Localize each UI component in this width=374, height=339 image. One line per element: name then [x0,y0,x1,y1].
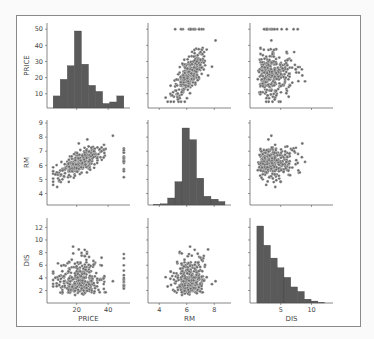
y-tick-label: 30 [35,58,43,66]
scatter-point [77,279,80,282]
scatter-point [93,290,96,293]
scatter-point [293,63,296,66]
scatter-point [295,159,298,162]
scatter-point [73,153,76,156]
scatter-point [80,254,83,257]
y-tick-label: 10 [35,236,43,244]
scatter-point [190,254,193,257]
scatter-point [102,156,105,159]
scatter-point [73,174,76,177]
scatter-point [267,138,270,141]
scatter-point [77,248,80,251]
scatter-point [261,173,264,176]
scatter-point [265,183,268,186]
scatter-point [186,272,189,275]
histogram-bar [264,245,271,303]
scatter-point [80,287,83,290]
scatter-point [266,94,269,97]
x-tick-label: 4 [157,306,161,314]
scatter-point [80,252,83,255]
scatter-point [122,287,125,290]
scatter-point [74,262,77,265]
scatter-point [61,270,64,273]
scatter-point [111,134,114,137]
scatter-point [79,262,82,265]
scatter-point [274,149,277,152]
scatter-point [122,276,125,279]
scatter-point [111,280,114,283]
scatter-point [202,279,205,282]
scatter-point [258,71,261,74]
scatter-point [52,180,55,183]
scatter-point [122,253,125,256]
scatter-point [70,155,73,158]
panel-dis-vs-price: 204024681012 [35,218,130,314]
scatter-point [271,157,274,160]
scatter-point [87,263,90,266]
histogram-bar [204,196,211,205]
scatter-point [176,92,179,95]
scatter-point [266,166,269,169]
scatter-point [164,96,167,99]
scatter-point [211,283,214,286]
scatter-point [91,153,94,156]
scatter-point [187,85,190,88]
scatter-point [214,280,217,283]
scatter-point [189,245,192,248]
scatter-point [260,150,263,153]
scatter-point [284,167,287,170]
y-tick-label: 7 [39,147,43,155]
scatter-point [52,282,55,285]
scatter-point [189,264,192,267]
scatter-point [175,89,178,92]
scatter-point [297,66,300,69]
scatter-point [187,80,190,83]
scatter-point [84,280,87,283]
scatter-point [289,84,292,87]
scatter-point [184,277,187,280]
scatter-point [95,272,98,275]
scatter-point [80,166,83,169]
scatter-point [198,276,201,279]
x-tick-label: 6 [185,306,189,314]
scatter-point [260,58,263,61]
scatter-point [80,275,83,278]
scatter-point [81,292,84,295]
scatter-point [100,264,103,267]
scatter-point [63,175,66,178]
scatter-point [199,64,202,67]
scatter-point [83,272,86,275]
scatter-point [188,279,191,282]
scatter-point [186,268,189,271]
scatter-point [280,148,283,151]
scatter-point [68,261,71,264]
scatter-point [171,275,174,278]
scatter-point [93,166,96,169]
scatter-point [270,68,273,71]
scatter-point [88,274,91,277]
scatter-point [74,274,77,277]
scatter-point [61,169,64,172]
x-axis-label-rm: RM [184,315,195,323]
scatter-point [266,88,269,91]
scatter-point [271,74,274,77]
y-axis-label-dis: DIS [23,254,31,266]
scatter-point [55,164,58,167]
scatter-point [94,287,97,290]
x-tick-label: 8 [212,306,216,314]
scatter-point [67,180,70,183]
scatter-point [285,28,288,31]
scatter-point [186,88,189,91]
scatter-point [179,267,182,270]
scatter-point [270,162,273,165]
scatter-point [186,58,189,61]
scatter-point [58,275,61,278]
scatter-point [190,77,193,80]
scatter-point [71,170,74,173]
scatter-point [100,256,103,259]
scatter-point [54,276,57,279]
scatter-point [265,149,268,152]
y-tick-label: 8 [39,133,43,141]
scatter-point [76,152,79,155]
scatter-point [261,162,264,165]
